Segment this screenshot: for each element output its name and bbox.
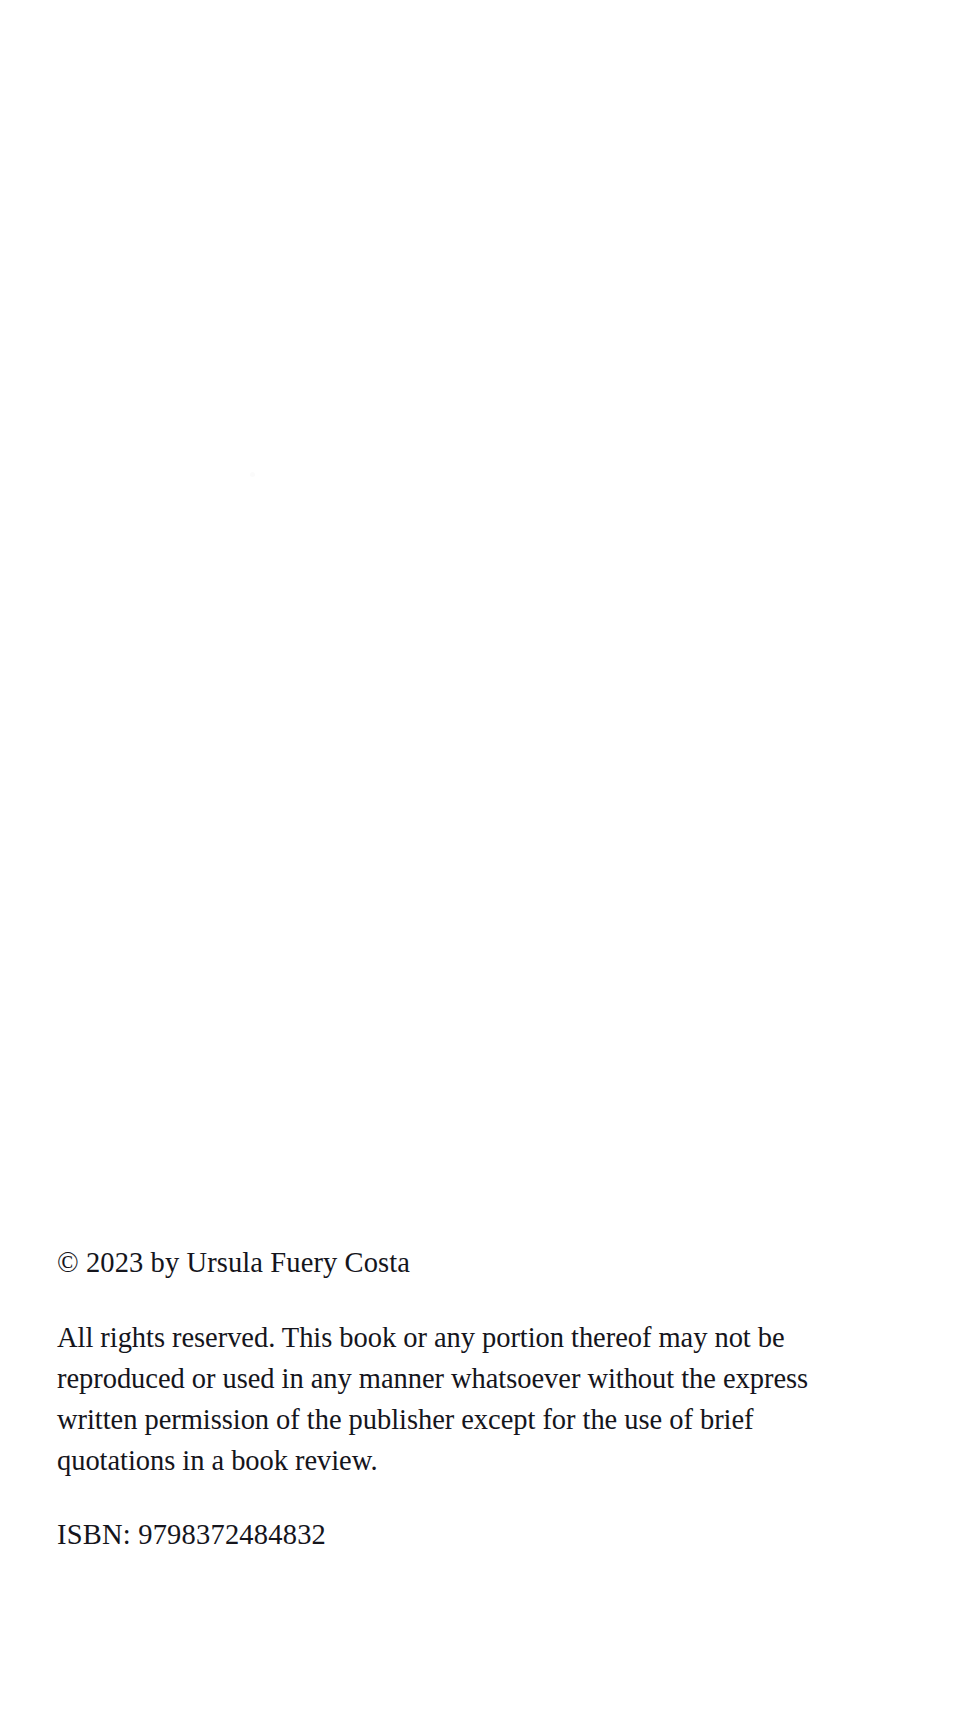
copyright-page: © 2023 by Ursula Fuery Costa All rights … bbox=[0, 0, 956, 1716]
scan-speck-artifact bbox=[250, 472, 255, 477]
copyright-notice: © 2023 by Ursula Fuery Costa bbox=[57, 1245, 839, 1281]
page-top-blank-area bbox=[0, 0, 956, 1240]
rights-reserved-statement: All rights reserved. This book or any po… bbox=[57, 1317, 832, 1481]
page-bottom-blank-area bbox=[0, 1510, 956, 1716]
colophon-block: © 2023 by Ursula Fuery Costa All rights … bbox=[57, 1245, 839, 1552]
